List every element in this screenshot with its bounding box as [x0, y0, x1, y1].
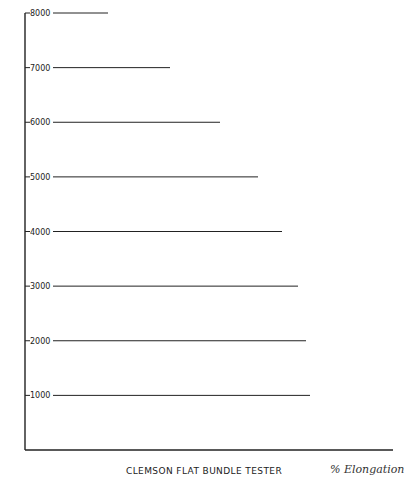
y-tick-label: 4000 — [30, 228, 50, 237]
x-axis-label-handwritten: % Elongation — [330, 463, 404, 476]
y-tick-label: 5000 — [30, 173, 50, 182]
y-tick-label: 6000 — [30, 118, 50, 127]
horizontal-gridlines — [25, 13, 310, 395]
y-tick-label: 8000 — [30, 9, 50, 18]
y-tick-label: 2000 — [30, 337, 50, 346]
chart-title: CLEMSON FLAT BUNDLE TESTER — [126, 466, 282, 476]
y-tick-label: 1000 — [30, 391, 50, 400]
y-tick-label: 7000 — [30, 64, 50, 73]
y-tick-labels: 10002000300040005000600070008000 — [30, 9, 50, 400]
nomograph-chart: 10002000300040005000600070008000 CLEMSON… — [0, 0, 406, 481]
y-tick-label: 3000 — [30, 282, 50, 291]
